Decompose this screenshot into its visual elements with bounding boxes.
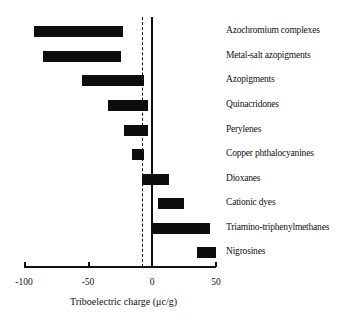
- bar: [34, 26, 122, 37]
- bar: [197, 247, 216, 258]
- dashed-reference-line: [142, 17, 143, 267]
- category-label: Nigrosines: [226, 246, 265, 257]
- x-tick: [88, 262, 90, 267]
- x-tick-label: 50: [211, 277, 221, 287]
- category-label: Perylenes: [226, 124, 261, 135]
- bar: [82, 75, 145, 86]
- category-label: Metal-salt azopigments: [226, 50, 311, 61]
- x-tick-label: -100: [15, 277, 32, 287]
- category-label: Dioxanes: [226, 173, 260, 184]
- category-label: Azochromium complexes: [226, 25, 320, 36]
- bar: [43, 51, 121, 62]
- bar: [132, 149, 145, 160]
- category-label: Quinacridones: [226, 99, 279, 110]
- bar: [124, 125, 148, 136]
- category-label: Azopigments: [226, 74, 274, 85]
- category-label: Triamino-triphenylmethanes: [226, 222, 329, 233]
- x-tick: [24, 262, 26, 267]
- x-axis-title: Triboelectric charge (μc/g): [70, 296, 177, 307]
- bar: [152, 223, 210, 234]
- x-tick-label: -50: [82, 277, 95, 287]
- bar: [108, 100, 148, 111]
- bar: [142, 174, 169, 185]
- x-tick: [151, 262, 153, 267]
- category-label: Copper phthalocyanines: [226, 148, 314, 159]
- bar: [158, 198, 184, 209]
- triboelectric-charge-chart: Azochromium complexesMetal-salt azopigme…: [0, 0, 352, 323]
- x-tick: [215, 262, 217, 267]
- x-tick-label: 0: [150, 277, 155, 287]
- category-label: Cationic dyes: [226, 197, 275, 208]
- x-axis: [24, 266, 216, 268]
